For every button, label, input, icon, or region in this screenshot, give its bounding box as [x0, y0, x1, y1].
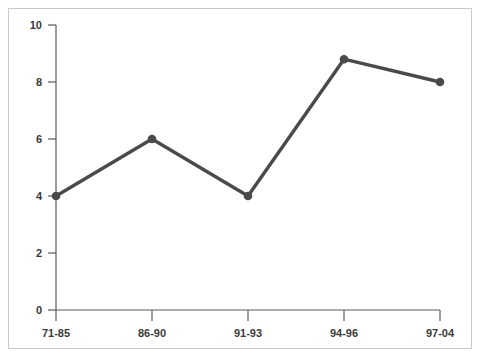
y-tick-label: 10: [30, 19, 42, 31]
data-point-marker: [148, 135, 157, 144]
y-axis-ticks: [48, 25, 56, 310]
data-point-marker: [340, 55, 349, 64]
x-tick-label: 91-93: [234, 327, 262, 339]
y-tick-label: 0: [36, 304, 42, 316]
x-tick-label: 94-96: [330, 327, 358, 339]
y-tick-label: 2: [36, 247, 42, 259]
series-line: [56, 59, 440, 196]
y-axis: 0246810: [30, 19, 56, 316]
x-tick-label: 97-04: [426, 327, 455, 339]
data-point-marker: [52, 192, 61, 201]
y-tick-label: 6: [36, 133, 42, 145]
data-point-marker: [436, 78, 445, 87]
x-axis-ticks: [56, 310, 440, 321]
data-series: [52, 55, 445, 200]
x-axis: 71-8586-9091-9394-9697-04: [42, 310, 455, 339]
line-chart-plot: 0246810 71-8586-9091-9394-9697-04: [0, 0, 482, 357]
x-tick-label: 86-90: [138, 327, 166, 339]
chart-figure: 0246810 71-8586-9091-9394-9697-04: [0, 0, 482, 357]
y-tick-label: 4: [36, 190, 43, 202]
x-axis-tick-labels: 71-8586-9091-9394-9697-04: [42, 327, 455, 339]
y-tick-label: 8: [36, 76, 42, 88]
y-axis-tick-labels: 0246810: [30, 19, 43, 316]
series-markers: [52, 55, 445, 200]
x-tick-label: 71-85: [42, 327, 70, 339]
data-point-marker: [244, 192, 253, 201]
